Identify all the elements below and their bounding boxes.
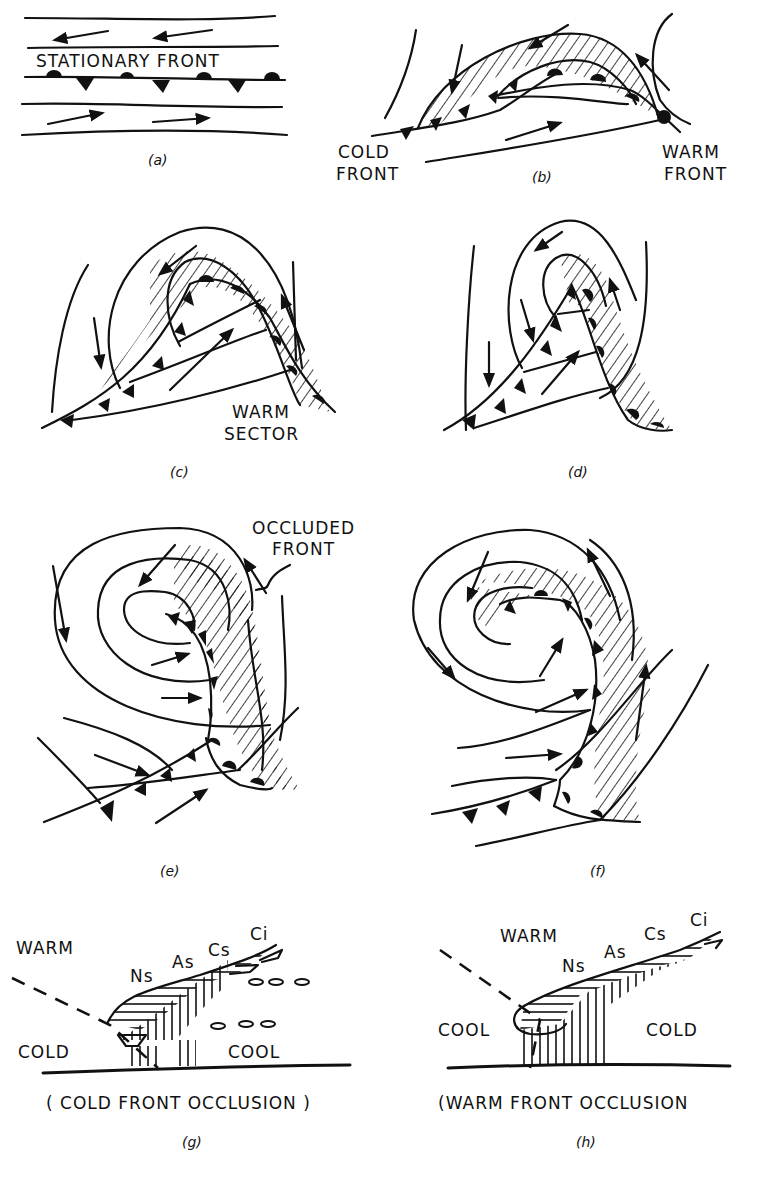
cirrostratus-label: Cs xyxy=(208,940,231,960)
wind-arrow-icon xyxy=(48,113,102,124)
panel-caption-a: (a) xyxy=(148,152,168,168)
altostratus-label: As xyxy=(172,952,195,972)
panel-f: (f) xyxy=(413,530,708,879)
nimbostratus-label: Ns xyxy=(562,956,586,976)
nimbostratus-label: Ns xyxy=(130,966,154,986)
panel-d: (d) xyxy=(444,221,672,480)
cold-front-triangle-icon xyxy=(76,78,94,91)
cyclone-lifecycle-diagram: STATIONARY FRONT (a) COLD xyxy=(0,0,774,1179)
warm-front-semicircle-icon xyxy=(46,70,62,77)
wind-arrow-icon xyxy=(155,30,212,38)
warm-front-label: WARM xyxy=(662,142,720,162)
svg-text:FRONT: FRONT xyxy=(272,539,335,559)
panel-caption-d: (d) xyxy=(568,464,588,480)
panel-caption-b: (b) xyxy=(532,169,552,185)
warm-air-label: WARM xyxy=(16,938,74,958)
altostratus-label: As xyxy=(604,942,627,962)
panel-g: WARM COLD COOL Ns As Cs Ci ( COLD FRONT … xyxy=(12,924,350,1150)
stationary-front-line xyxy=(25,77,285,80)
panel-a: STATIONARY FRONT (a) xyxy=(22,16,287,168)
cold-front-occlusion-title: ( COLD FRONT OCCLUSION ) xyxy=(46,1093,311,1113)
stationary-front-label: STATIONARY FRONT xyxy=(36,51,220,71)
warm-air-label: WARM xyxy=(500,926,558,946)
svg-text:FRONT: FRONT xyxy=(664,164,727,184)
wind-arrow-icon xyxy=(153,118,208,122)
cold-air-label: COLD xyxy=(18,1042,70,1062)
warm-sector-label: WARM xyxy=(232,402,290,422)
cold-front-label: COLD xyxy=(338,142,390,162)
panel-caption-f: (f) xyxy=(590,863,606,879)
cool-air-label: COOL xyxy=(438,1020,490,1040)
cold-air-label: COLD xyxy=(646,1020,698,1040)
cirrus-label: Ci xyxy=(690,910,709,930)
svg-text:SECTOR: SECTOR xyxy=(224,424,299,444)
panel-caption-c: (c) xyxy=(170,464,189,480)
panel-caption-h: (h) xyxy=(576,1134,596,1150)
cool-air-label: COOL xyxy=(228,1042,280,1062)
warm-front-occlusion-title: (WARM FRONT OCCLUSION xyxy=(438,1093,689,1113)
panel-caption-g: (g) xyxy=(182,1134,202,1150)
panel-c: WARM SECTOR (c) xyxy=(42,228,335,480)
panel-b: COLD FRONT WARM FRONT (b) xyxy=(336,14,727,185)
cirrus-label: Ci xyxy=(250,924,269,944)
svg-text:FRONT: FRONT xyxy=(336,164,399,184)
panel-e: OCCLUDED FRONT (e) xyxy=(38,518,355,879)
panel-caption-e: (e) xyxy=(160,863,180,879)
wind-arrow-icon xyxy=(55,31,108,40)
panel-h: WARM COOL COLD Ns As Cs Ci (WARM FRONT O… xyxy=(438,910,730,1150)
cirrostratus-label: Cs xyxy=(644,924,667,944)
occluded-front-label: OCCLUDED xyxy=(252,518,355,538)
